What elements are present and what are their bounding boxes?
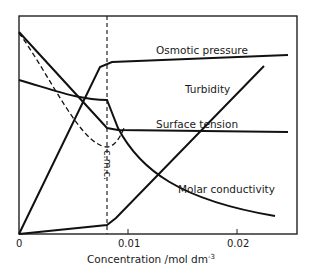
label-surface-tension: Surface tension [156,118,238,130]
label-molar-conductivity: Molar conductivity [178,183,275,195]
x-axis-label: Concentration /mol dm-3 [87,253,215,265]
x-axis-label-sup: -3 [208,253,215,261]
label-turbidity: Turbidity [184,83,230,95]
x-tick-2: 0.02 [227,238,249,249]
x-tick-0: 0 [16,238,22,249]
chart: c.m.c. Osmotic pressure Turbidity Surfac… [0,0,314,273]
series-molar-conductivity [19,80,275,216]
x-tick-1: 0.01 [118,238,140,249]
cmc-label: c.m.c. [102,150,113,180]
x-axis-label-text: Concentration /mol dm [87,253,208,265]
label-osmotic-pressure: Osmotic pressure [156,44,248,56]
